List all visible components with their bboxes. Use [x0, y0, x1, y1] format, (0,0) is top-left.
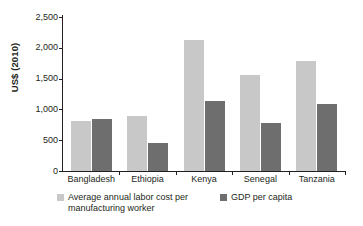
bar: [92, 119, 112, 171]
x-axis-category-label: Ethiopia: [119, 174, 175, 185]
y-axis-tick-label: 1,500: [6, 74, 58, 83]
bar: [261, 123, 281, 171]
legend-label-labor-cost: Average annual labor cost per manufactur…: [68, 192, 217, 213]
bar: [240, 75, 260, 171]
y-axis-tick-label: 0: [6, 167, 58, 176]
y-axis-tick: [59, 17, 63, 18]
bar-chart: US$ (2010) 05001,0001,5002,0002,500 Bang…: [0, 0, 363, 226]
bar: [184, 40, 204, 171]
bar-group: [296, 17, 337, 171]
x-axis-tick: [232, 171, 233, 175]
y-axis-tick-label: 500: [6, 136, 58, 145]
legend-item-gdp-per-capita: GDP per capita: [220, 192, 350, 203]
legend-label-gdp-per-capita: GDP per capita: [231, 192, 292, 203]
x-axis-category-label: Senegal: [232, 174, 288, 185]
y-axis-tick: [59, 171, 63, 172]
x-axis-category-label: Tanzania: [289, 174, 345, 185]
x-axis-tick: [345, 171, 346, 175]
bar-group: [127, 17, 168, 171]
legend-swatch-icon-gdp-per-capita: [220, 194, 227, 201]
legend-item-labor-cost: Average annual labor cost per manufactur…: [57, 192, 217, 213]
y-axis-tick: [59, 140, 63, 141]
bar-group: [184, 17, 225, 171]
bar-group: [71, 17, 112, 171]
y-axis-tick-label: 2,000: [6, 43, 58, 52]
x-axis-tick: [119, 171, 120, 175]
bar: [71, 121, 91, 172]
x-axis-tick: [176, 171, 177, 175]
bar: [317, 104, 337, 171]
x-axis-tick: [289, 171, 290, 175]
bar: [205, 101, 225, 171]
plot-area: [63, 17, 345, 171]
y-axis-tick-label: 2,500: [6, 13, 58, 22]
y-axis-tick: [59, 109, 63, 110]
x-axis-category-labels: BangladeshEthiopiaKenyaSenegalTanzania: [63, 174, 345, 187]
bar-group: [240, 17, 281, 171]
legend-swatch-icon-labor-cost: [57, 194, 64, 201]
chart-legend: Average annual labor cost per manufactur…: [57, 192, 357, 222]
y-axis-tick-labels: 05001,0001,5002,0002,500: [0, 17, 58, 171]
bar: [148, 143, 168, 171]
x-axis-line: [62, 171, 346, 172]
bar: [127, 116, 147, 171]
bar: [296, 61, 316, 171]
y-axis-tick: [59, 79, 63, 80]
x-axis-category-label: Bangladesh: [63, 174, 119, 185]
y-axis-tick: [59, 48, 63, 49]
x-axis-category-label: Kenya: [176, 174, 232, 185]
y-axis-tick-label: 1,000: [6, 105, 58, 114]
